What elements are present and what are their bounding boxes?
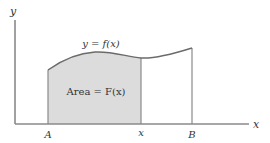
tick-label-x: x [138, 127, 144, 138]
tick-label-b: B [187, 129, 195, 140]
tick-label-a: A [43, 129, 51, 140]
area-label: Area = F(x) [66, 86, 126, 97]
curve-label: y = f(x) [81, 38, 120, 49]
x-axis-label: x [253, 118, 260, 131]
area-function-diagram: y x y = f(x) Area = F(x) A x B [0, 0, 270, 143]
y-axis-label: y [9, 5, 17, 18]
